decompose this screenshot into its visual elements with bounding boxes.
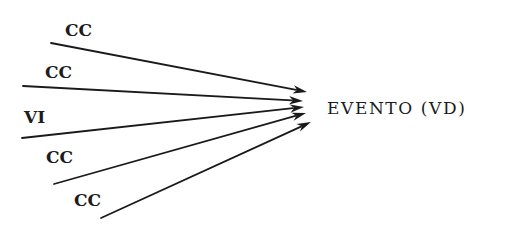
convergent-arrow-diagram: CC CC VI CC CC EVENTO (VD) bbox=[0, 0, 522, 232]
arrow-line-4 bbox=[54, 116, 295, 184]
source-label-cc-3: CC bbox=[46, 147, 73, 167]
source-label-cc-4: CC bbox=[74, 190, 101, 210]
source-label-cc-2: CC bbox=[45, 62, 72, 82]
diagram-canvas: CC CC VI CC CC EVENTO (VD) bbox=[0, 0, 522, 232]
arrow-line-2 bbox=[23, 86, 292, 100]
target-label-evento: EVENTO (VD) bbox=[327, 98, 466, 118]
arrow-line-1 bbox=[51, 43, 296, 90]
arrow-line-5 bbox=[101, 127, 301, 218]
source-label-vi: VI bbox=[23, 107, 45, 127]
source-label-cc-1: CC bbox=[65, 20, 92, 40]
arrow-line-3 bbox=[22, 108, 293, 138]
